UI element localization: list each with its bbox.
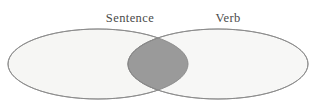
- set-label-right: Verb: [215, 11, 240, 25]
- set-label-left: Sentence: [106, 11, 154, 25]
- venn-diagram: Sentence Verb: [0, 0, 322, 112]
- venn-diagram-canvas: Sentence Verb: [0, 0, 322, 112]
